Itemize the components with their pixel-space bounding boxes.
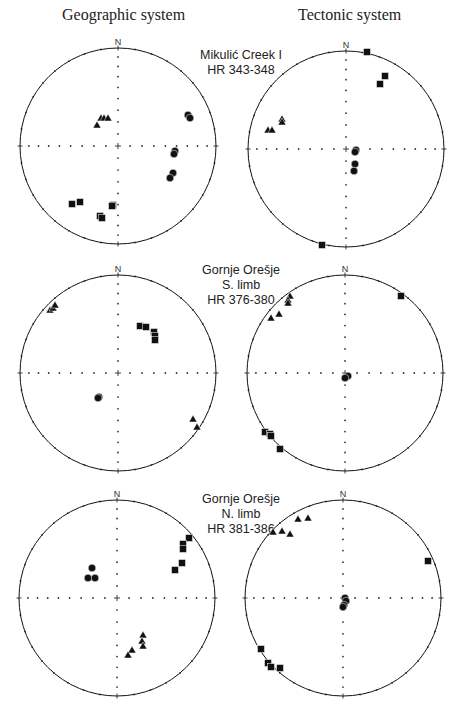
grid-dot (356, 372, 358, 374)
int-axis-triangle (139, 631, 147, 638)
grid-dot (345, 136, 347, 138)
grid-dot (116, 550, 118, 552)
min-axis-circle (166, 174, 174, 182)
grid-dot (117, 169, 119, 171)
grid-dot (116, 686, 118, 688)
min-axis-circle (88, 564, 96, 572)
min-axis-circle (339, 603, 347, 611)
grid-dot (404, 148, 406, 150)
grid-dot (345, 217, 347, 219)
grid-dot (344, 314, 346, 316)
max-axis-square (268, 664, 275, 671)
grid-dot (153, 372, 155, 374)
grid-dot (81, 145, 83, 147)
grid-dot (116, 585, 118, 587)
perimeter-tick (84, 53, 85, 55)
perimeter-tick (437, 115, 439, 116)
grid-dot (206, 145, 208, 147)
grid-dot (70, 145, 72, 147)
perimeter-tick (25, 339, 27, 340)
perimeter-tick (151, 237, 152, 239)
int-axis-triangle (51, 301, 59, 308)
grid-dot (368, 372, 370, 374)
grid-dot (425, 148, 427, 150)
grid-dot (342, 539, 344, 541)
grid-dot (105, 145, 107, 147)
grid-dot (330, 597, 332, 599)
grid-dot (344, 396, 346, 398)
grid-dot (422, 597, 424, 599)
grid-dot (117, 181, 119, 183)
grid-dot (116, 645, 118, 647)
perimeter-tick (83, 505, 84, 507)
int-axis-triangle (93, 121, 101, 128)
grid-dot (117, 225, 119, 227)
grid-dot (332, 372, 334, 374)
stereonet-mikulic-geo: N (18, 37, 219, 247)
perimeter-tick (252, 406, 254, 407)
min-axis-circle (350, 167, 358, 175)
grid-dot (345, 90, 347, 92)
max-axis-square (180, 546, 187, 553)
grid-dot (117, 461, 119, 463)
min-axis-circle (351, 148, 359, 156)
grid-dot (342, 666, 344, 668)
grid-dot (129, 145, 131, 147)
grid-dot (47, 597, 49, 599)
perimeter-tick (253, 115, 255, 116)
perimeter-tick (150, 505, 151, 507)
north-label: N (115, 37, 122, 47)
max-axis-square (109, 203, 116, 210)
perimeter-tick (83, 689, 84, 691)
grid-dot (344, 336, 346, 338)
grid-dot (414, 148, 416, 150)
perimeter-tick (309, 689, 310, 691)
grid-dot (318, 597, 320, 599)
max-axis-square (77, 199, 84, 206)
max-axis-square (143, 324, 150, 331)
max-axis-square (377, 81, 384, 88)
perimeter-tick (151, 280, 152, 282)
max-axis-square (364, 49, 371, 56)
max-axis-square (382, 73, 389, 80)
grid-dot (344, 303, 346, 305)
perimeter-tick (84, 280, 85, 282)
stereonet-oresje-n-tec: N (243, 489, 444, 699)
grid-dot (117, 396, 119, 398)
grid-dot (413, 372, 415, 374)
grid-dot (117, 157, 119, 159)
grid-dot (344, 452, 346, 454)
grid-dot (369, 148, 371, 150)
perimeter-tick (434, 564, 436, 565)
grid-dot (342, 573, 344, 575)
max-axis-square (172, 567, 179, 574)
min-axis-circle (351, 160, 359, 168)
max-axis-square (179, 560, 186, 567)
int-axis-triangle (304, 514, 312, 521)
grid-dot (175, 597, 177, 599)
grid-dot (286, 372, 288, 374)
grid-dot (342, 656, 344, 658)
grid-dot (81, 372, 83, 374)
grid-dot (433, 372, 435, 374)
perimeter-tick (312, 240, 313, 242)
grid-dot (117, 336, 119, 338)
grid-dot (265, 372, 267, 374)
grid-dot (164, 597, 166, 599)
perimeter-tick (379, 240, 380, 242)
max-axis-square (258, 646, 265, 653)
perimeter-tick (436, 406, 438, 407)
grid-dot (287, 148, 289, 150)
grid-dot (393, 148, 395, 150)
grid-dot (141, 145, 143, 147)
grid-dot (117, 283, 119, 285)
grid-dot (117, 133, 119, 135)
grid-dot (116, 539, 118, 541)
min-axis-circle (94, 394, 102, 402)
grid-dot (92, 597, 94, 599)
grid-dot (117, 303, 119, 305)
grid-dot (59, 372, 61, 374)
int-axis-triangle (128, 646, 136, 653)
grid-dot (37, 597, 39, 599)
int-axis-triangle (267, 314, 275, 321)
